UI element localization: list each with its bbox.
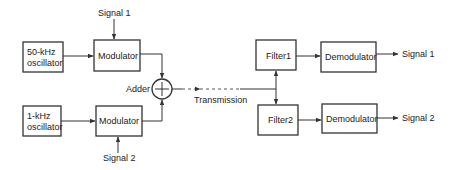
- signal2-output-label: Signal 2: [402, 113, 435, 123]
- adder-block: Adder: [126, 79, 172, 99]
- filter1-label: Filter1: [266, 51, 291, 61]
- signal2-input-label: Signal 2: [103, 153, 136, 163]
- mod2-label: Modulator: [99, 116, 139, 126]
- osc2-label-line1: 1-kHz: [27, 111, 51, 121]
- transmission-label: Transmission: [194, 95, 247, 105]
- demod1-label: Demodulator: [325, 52, 377, 62]
- osc1-label-line2: oscillator: [27, 58, 63, 68]
- signal1-input-label: Signal 1: [98, 8, 131, 18]
- osc1-label-line1: 50-kHz: [27, 47, 56, 57]
- mod1-to-adder-arrow: [140, 54, 162, 78]
- demodulator2-block: Demodulator: [322, 104, 378, 133]
- filter1-block: Filter1: [256, 40, 296, 70]
- block-diagram: Signal 1 50-kHz oscillator Modulator Add…: [0, 0, 452, 170]
- adder-label: Adder: [126, 84, 150, 94]
- filter2-label: Filter2: [268, 115, 293, 125]
- modulator1-block: Modulator: [94, 40, 140, 71]
- modulator2-block: Modulator: [96, 106, 142, 136]
- filter2-block: Filter2: [258, 105, 298, 135]
- demodulator1-block: Demodulator: [321, 42, 377, 72]
- oscillator-1khz-block: 1-kHz oscillator: [23, 106, 63, 136]
- mod1-label: Modulator: [98, 51, 138, 61]
- transmission-arrowhead: [195, 87, 201, 91]
- signal1-output-label: Signal 1: [402, 49, 435, 59]
- demod2-label: Demodulator: [326, 114, 378, 124]
- osc2-label-line2: oscillator: [27, 122, 63, 132]
- mod2-to-adder-arrow: [142, 100, 162, 121]
- oscillator-50khz-block: 50-kHz oscillator: [23, 42, 63, 72]
